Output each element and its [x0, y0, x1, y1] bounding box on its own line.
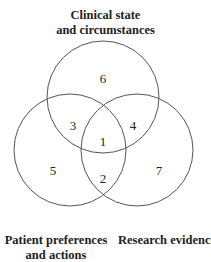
region-5: 5: [50, 163, 57, 178]
set-label-line: and actions: [0, 248, 112, 262]
region-3: 3: [70, 118, 77, 133]
circle-research-evidence: [81, 94, 193, 206]
region-1: 1: [100, 134, 107, 149]
venn-diagram: 6 3 4 1 5 2 7: [0, 0, 211, 262]
region-4: 4: [130, 118, 137, 133]
set-label-line: Patient preferences: [0, 233, 112, 248]
set-label-line: Research evidence: [118, 233, 211, 248]
region-6: 6: [100, 71, 107, 86]
circle-patient-preferences: [14, 94, 126, 206]
region-2: 2: [100, 171, 107, 186]
region-7: 7: [156, 163, 163, 178]
set-label-research-evidence: Research evidence: [118, 233, 211, 248]
set-label-patient-preferences: Patient preferences and actions: [0, 233, 112, 262]
